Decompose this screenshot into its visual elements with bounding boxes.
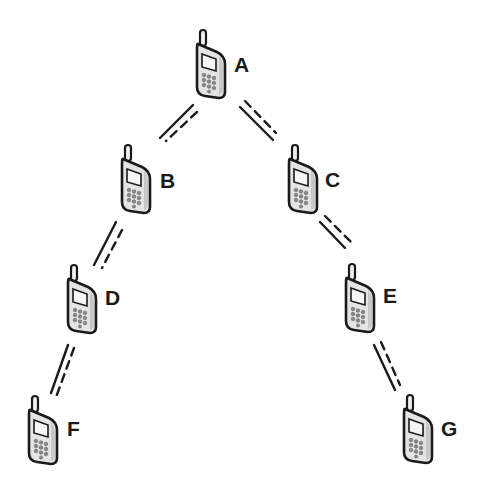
link-solid-line — [94, 222, 116, 265]
link-c-e — [320, 216, 352, 248]
link-dashed-line — [325, 216, 352, 243]
link-a-b — [160, 105, 197, 141]
node-label-b: B — [160, 170, 175, 191]
node-label-e: E — [383, 285, 397, 306]
node-label-d: D — [105, 287, 120, 308]
mobile-phone-icon-c — [289, 145, 317, 213]
edges-layer — [51, 101, 400, 400]
nodes-layer — [29, 30, 432, 464]
link-d-f — [51, 345, 74, 400]
link-e-g — [374, 342, 400, 390]
node-label-f: F — [67, 418, 80, 439]
node-label-c: C — [325, 169, 340, 190]
link-dashed-line — [102, 230, 122, 268]
link-solid-line — [160, 105, 193, 138]
mobile-phone-icon-a — [197, 30, 225, 98]
link-b-d — [94, 222, 122, 268]
node-label-a: A — [234, 54, 249, 75]
link-solid-line — [320, 222, 345, 248]
mobile-phone-icon-b — [122, 145, 150, 213]
link-a-c — [240, 101, 276, 140]
node-label-g: G — [441, 418, 457, 439]
mobile-phone-icon-g — [404, 395, 432, 463]
mobile-phone-icon-e — [346, 264, 374, 332]
mobile-phone-icon-f — [29, 396, 57, 464]
mobile-phone-icon-d — [68, 265, 96, 333]
